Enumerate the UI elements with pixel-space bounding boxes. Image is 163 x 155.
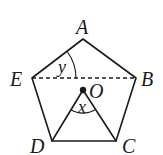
angle-label-y: y: [56, 57, 66, 77]
angle-arc-y: [68, 52, 77, 78]
vertex-label-C: C: [122, 135, 136, 155]
vertex-label-D: D: [29, 135, 45, 155]
vertex-label-E: E: [9, 68, 22, 90]
pentagon-diagram: A B C D E O y x: [0, 0, 163, 155]
center-point-O: [80, 87, 86, 93]
vertex-label-B: B: [141, 68, 153, 90]
vertex-label-A: A: [74, 16, 89, 38]
angle-label-x: x: [77, 97, 86, 117]
center-label-O: O: [89, 80, 103, 102]
